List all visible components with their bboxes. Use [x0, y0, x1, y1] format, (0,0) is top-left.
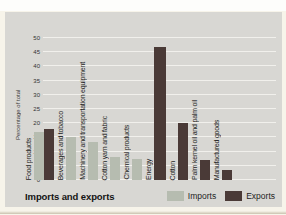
category-group: Energy: [145, 47, 166, 180]
y-tick-label: 50: [25, 35, 40, 41]
bar-groups: Food productsBeverages and tobaccoMachin…: [25, 47, 278, 180]
bar-pair: [34, 129, 54, 180]
category-label: Manufactured goods: [213, 120, 221, 180]
imports-legend-label: Imports: [188, 191, 216, 201]
category-label: Energy: [145, 159, 153, 180]
category-group: Chemical products: [123, 125, 142, 180]
category-group: Beverages and tobacco: [57, 111, 76, 180]
bar-pair: [132, 159, 142, 180]
imports-bar: [66, 137, 76, 180]
legend-item-exports: Exports: [225, 191, 275, 201]
exports-bar: [222, 170, 232, 180]
imports-bar: [88, 142, 98, 180]
category-group: Cotton yarn and fabric: [101, 116, 120, 180]
bar-pair: [110, 157, 120, 180]
imports-bar: [110, 157, 120, 180]
category-group: Manufactured goods: [213, 120, 232, 180]
bar-pair: [200, 160, 210, 180]
chart-panel: Percentage of total 05101520253035404550…: [5, 12, 282, 207]
y-axis-title: Percentage of total: [15, 56, 21, 174]
bar-pair: [178, 123, 188, 180]
exports-legend-label: Exports: [246, 191, 275, 201]
category-group: Machinery and transportation equipment: [79, 62, 98, 180]
category-label: Machinery and transportation equipment: [79, 62, 87, 180]
category-group: Cotton: [169, 123, 188, 180]
gridline: [43, 37, 276, 38]
category-label: Beverages and tobacco: [57, 111, 65, 180]
bar-pair: [66, 137, 76, 180]
legend: Imports Exports: [167, 191, 275, 201]
chart-title: Imports and exports: [25, 191, 114, 202]
imports-bar: [132, 159, 142, 180]
bar-pair: [222, 170, 232, 180]
category-label: Cotton: [169, 161, 177, 180]
exports-legend-swatch: [225, 191, 242, 201]
category-label: Food products: [25, 138, 33, 180]
category-label: Cotton yarn and fabric: [101, 116, 109, 180]
exports-bar: [178, 123, 188, 180]
bar-pair: [154, 47, 166, 180]
category-label: Palm kernel oil and palm oil: [191, 100, 199, 180]
category-group: Palm kernel oil and palm oil: [191, 100, 210, 180]
page-bottom-shadow: [0, 211, 286, 214]
exports-bar: [200, 160, 210, 180]
legend-item-imports: Imports: [167, 191, 216, 201]
imports-legend-swatch: [167, 191, 184, 201]
exports-bar: [154, 47, 166, 180]
bar-pair: [88, 142, 98, 180]
exports-bar: [44, 129, 54, 180]
category-group: Food products: [25, 129, 54, 180]
imports-bar: [34, 132, 44, 180]
category-label: Chemical products: [123, 125, 131, 180]
scanned-chart-page: Percentage of total 05101520253035404550…: [0, 0, 286, 215]
